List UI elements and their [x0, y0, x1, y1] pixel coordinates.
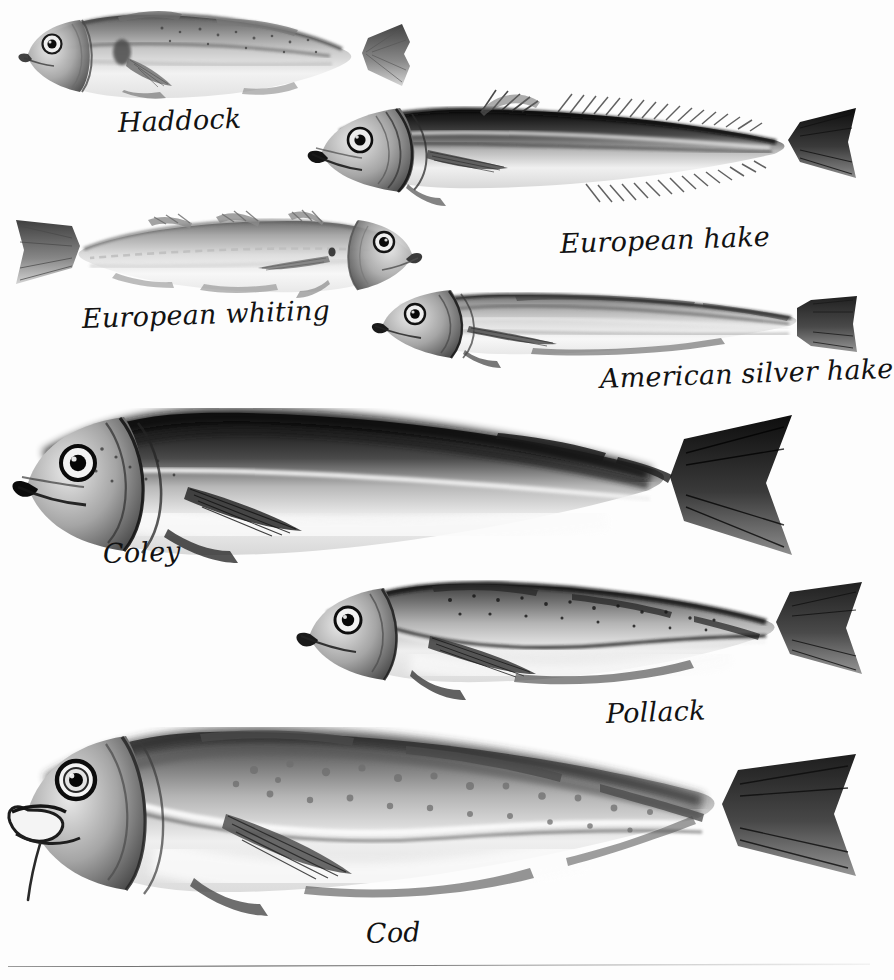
label-european-hake: European hake: [559, 221, 770, 259]
fish-european-hake: [300, 88, 870, 213]
label-haddock: Haddock: [117, 103, 241, 138]
fish-pollack: [290, 570, 875, 700]
fish-american-silver-hake: [365, 280, 865, 368]
fish-cod: [4, 718, 874, 918]
bottom-rule: [8, 963, 870, 967]
label-cod: Cod: [365, 916, 421, 949]
label-coley: Coley: [102, 535, 181, 569]
